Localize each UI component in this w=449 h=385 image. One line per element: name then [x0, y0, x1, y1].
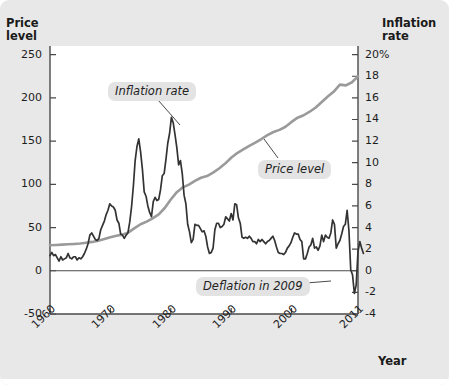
ytick-left-50: 50 [6, 221, 42, 234]
ytick-right--2: -2 [365, 285, 405, 298]
ytick-right-10: 10 [365, 156, 405, 169]
callout-inflation-rate: Inflation rate [108, 82, 196, 101]
left-axis-title-line2: level [6, 29, 37, 43]
ytick-right-16: 16 [365, 91, 405, 104]
figure-panel: Price level Inflation rate Year Inflatio… [0, 0, 449, 385]
left-axis-title-line1: Price [6, 16, 39, 30]
callout-price-level: Price level [258, 160, 331, 179]
ytick-right-18: 18 [365, 69, 405, 82]
callout-deflation-2009: Deflation in 2009 [196, 277, 310, 296]
left-axis-title: Price level [6, 17, 48, 43]
ytick-right-12: 12 [365, 134, 405, 147]
x-axis-title: Year [378, 355, 438, 368]
right-axis-title-line1: Inflation [382, 16, 436, 30]
plot-area-background [50, 46, 358, 314]
ytick-left-150: 150 [6, 134, 42, 147]
right-axis-title-line2: rate [382, 29, 409, 43]
ytick-left-200: 200 [6, 91, 42, 104]
ytick-right-4: 4 [365, 221, 405, 234]
ytick-right-8: 8 [365, 177, 405, 190]
ytick-left-250: 250 [6, 48, 42, 61]
ytick-right--4: -4 [365, 307, 405, 320]
ytick-right-0: 0 [365, 264, 405, 277]
right-axis-title: Inflation rate [382, 17, 444, 43]
ytick-left-0: 0 [6, 264, 42, 277]
ytick-right-6: 6 [365, 199, 405, 212]
ytick-right-2: 2 [365, 242, 405, 255]
ytick-right-20%: 20% [365, 48, 405, 61]
ytick-right-14: 14 [365, 112, 405, 125]
ytick-left-100: 100 [6, 177, 42, 190]
